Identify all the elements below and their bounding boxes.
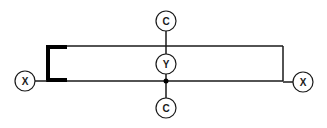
node-x-right: X <box>293 72 313 92</box>
diagram-svg: X X C Y C <box>0 0 327 128</box>
junction-dot <box>164 79 169 84</box>
node-x-right-label: X <box>300 77 307 88</box>
node-c-bottom-label: C <box>162 103 169 114</box>
node-c-top: C <box>156 11 176 31</box>
node-y-center-label: Y <box>163 59 170 70</box>
node-y-center: Y <box>156 54 176 74</box>
left-bracket <box>48 47 67 80</box>
node-x-left-label: X <box>22 76 29 87</box>
node-c-top-label: C <box>162 16 169 27</box>
node-x-left: X <box>15 71 35 91</box>
diagram-canvas: X X C Y C <box>0 0 327 128</box>
node-c-bottom: C <box>156 98 176 118</box>
